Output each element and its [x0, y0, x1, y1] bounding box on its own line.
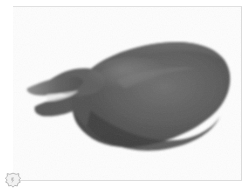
guide-line-horizontal: [13, 180, 242, 181]
image-viewer: Dark bird in profile facing left with op…: [0, 0, 249, 195]
photo-frame[interactable]: [13, 6, 242, 180]
photo-grain-overlay: [13, 7, 241, 180]
hexagon-flower-handle-icon[interactable]: [3, 171, 23, 191]
photo-canvas: [13, 7, 241, 180]
bird-photograph: [13, 7, 241, 180]
